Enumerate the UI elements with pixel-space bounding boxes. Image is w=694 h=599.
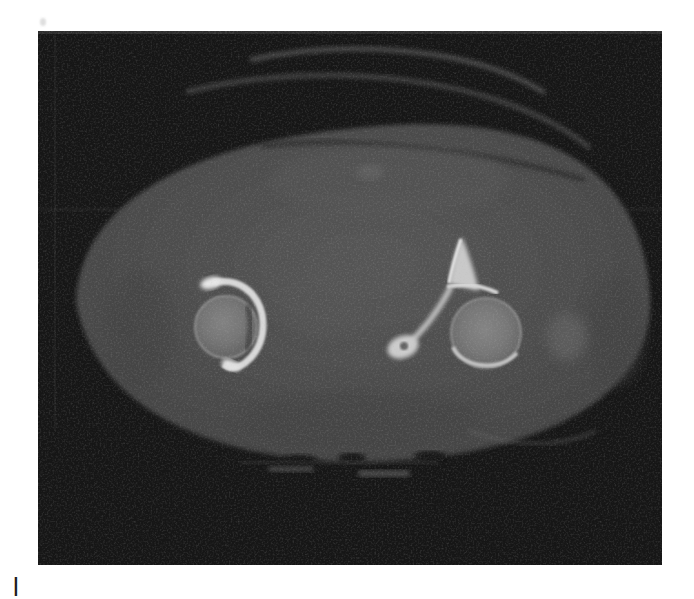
- ct-figure: [0, 0, 694, 599]
- ct-scan-image: [0, 0, 694, 599]
- film-grain-overlay: [38, 31, 662, 565]
- document-page: l: [0, 0, 694, 599]
- caption-fragment: l: [13, 574, 19, 599]
- scan-content: [38, 31, 662, 565]
- page-background: { "figure": { "label": "axial-pelvic-ct-…: [0, 0, 694, 599]
